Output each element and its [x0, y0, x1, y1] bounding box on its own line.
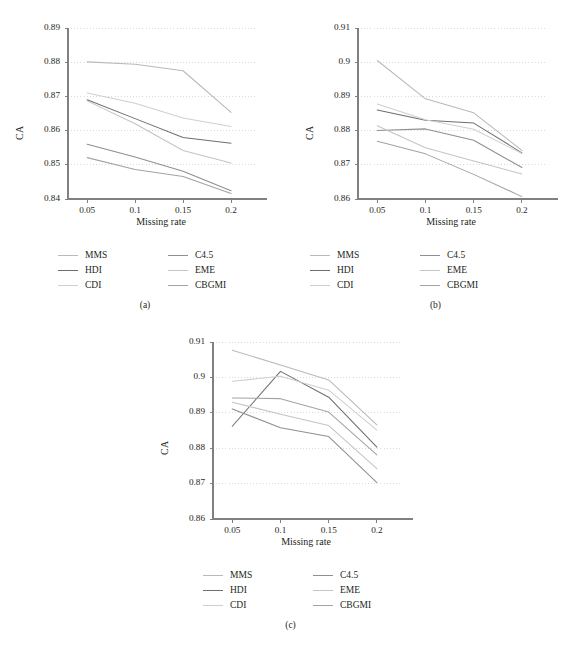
legend-swatch-hdi [58, 270, 78, 271]
legend-item-eme[interactable]: EME [168, 263, 226, 278]
legend-item-c45[interactable]: C4.5 [420, 248, 478, 263]
legend-item-eme[interactable]: EME [313, 583, 371, 598]
panel-c: CA Missing rate MMS HDI CDI [145, 310, 436, 647]
legend-swatch-cbgmi [420, 285, 440, 286]
legend-label-c45: C4.5 [447, 248, 465, 263]
y-axis-tick-label: 0.86 [26, 124, 60, 134]
legend-swatch-c45 [313, 575, 333, 576]
legend-swatch-mms [310, 255, 330, 256]
y-axis-tick-label: 0.88 [26, 56, 60, 66]
panel-b-legend: MMS HDI CDI C4.5 EME [290, 248, 581, 298]
y-axis-tick-label: 0.89 [171, 406, 205, 416]
y-axis-tick-label: 0.87 [26, 90, 60, 100]
x-axis-tick-label: 0.15 [454, 205, 494, 215]
legend-item-hdi[interactable]: HDI [58, 263, 107, 278]
legend-swatch-eme [420, 270, 440, 271]
legend-swatch-hdi [310, 270, 330, 271]
legend-item-eme[interactable]: EME [420, 263, 478, 278]
legend-label-cdi: CDI [230, 598, 246, 613]
legend-item-cdi[interactable]: CDI [58, 278, 107, 293]
legend-label-cbgmi: CBGMI [447, 278, 478, 293]
legend-swatch-eme [168, 270, 188, 271]
y-axis-tick-label: 0.89 [316, 90, 350, 100]
x-axis-tick-label: 0.05 [212, 525, 252, 535]
y-axis-tick-label: 0.91 [316, 22, 350, 32]
x-axis-tick-label: 0.15 [163, 205, 203, 215]
legend-label-hdi: HDI [230, 583, 247, 598]
y-axis-tick-label: 0.89 [26, 22, 60, 32]
legend-swatch-mms [58, 255, 78, 256]
legend-item-mms[interactable]: MMS [310, 248, 359, 263]
panel-a-legend-col-1: MMS HDI CDI [58, 248, 107, 293]
panel-c-legend-col-1: MMS HDI CDI [203, 568, 252, 613]
y-axis-tick-label: 0.84 [26, 193, 60, 203]
legend-swatch-cdi [310, 285, 330, 286]
legend-label-mms: MMS [85, 248, 107, 263]
y-axis-tick-label: 0.87 [316, 158, 350, 168]
panel-b-caption: (b) [290, 300, 581, 310]
x-axis-tick-label: 0.2 [211, 205, 251, 215]
x-axis-tick-label: 0.1 [260, 525, 300, 535]
x-axis-tick-label: 0.2 [502, 205, 542, 215]
panel-b-x-axis-title: Missing rate [356, 216, 546, 227]
legend-label-c45: C4.5 [195, 248, 213, 263]
legend-swatch-c45 [420, 255, 440, 256]
legend-swatch-hdi [203, 590, 223, 591]
panel-c-x-axis-title: Missing rate [211, 536, 401, 547]
panel-b-legend-col-2: C4.5 EME CBGMI [420, 248, 478, 293]
legend-label-hdi: HDI [337, 263, 354, 278]
legend-label-cdi: CDI [337, 278, 353, 293]
legend-item-cdi[interactable]: CDI [310, 278, 359, 293]
x-axis-tick-label: 0.2 [357, 525, 397, 535]
y-axis-tick-label: 0.91 [171, 336, 205, 346]
panel-a-legend: MMS HDI CDI C4.5 EME [0, 248, 290, 298]
legend-label-mms: MMS [230, 568, 252, 583]
legend-label-cdi: CDI [85, 278, 101, 293]
x-axis-tick-label: 0.15 [309, 525, 349, 535]
legend-label-cbgmi: CBGMI [195, 278, 226, 293]
x-axis-tick-label: 0.05 [357, 205, 397, 215]
y-axis-tick-label: 0.9 [316, 56, 350, 66]
legend-item-hdi[interactable]: HDI [203, 583, 252, 598]
panel-a: CA Missing rate MMS HDI CDI [0, 0, 290, 310]
legend-swatch-cbgmi [168, 285, 188, 286]
x-axis-tick-label: 0.1 [405, 205, 445, 215]
legend-label-cbgmi: CBGMI [340, 598, 371, 613]
panel-c-legend-col-2: C4.5 EME CBGMI [313, 568, 371, 613]
legend-item-mms[interactable]: MMS [58, 248, 107, 263]
y-axis-tick-label: 0.85 [26, 158, 60, 168]
panel-c-svg [145, 310, 436, 560]
panel-a-svg [0, 0, 290, 240]
y-axis-tick-label: 0.88 [316, 124, 350, 134]
legend-label-eme: EME [447, 263, 467, 278]
panel-c-caption: (c) [145, 620, 436, 630]
panel-c-legend: MMS HDI CDI C4.5 EME [145, 568, 436, 618]
y-axis-tick-label: 0.86 [316, 193, 350, 203]
panel-b-svg [290, 0, 581, 240]
legend-label-eme: EME [340, 583, 360, 598]
legend-swatch-cdi [203, 605, 223, 606]
panel-a-legend-col-2: C4.5 EME CBGMI [168, 248, 226, 293]
legend-item-cbgmi[interactable]: CBGMI [313, 598, 371, 613]
legend-swatch-cbgmi [313, 605, 333, 606]
y-axis-tick-label: 0.88 [171, 442, 205, 452]
legend-item-c45[interactable]: C4.5 [313, 568, 371, 583]
legend-label-c45: C4.5 [340, 568, 358, 583]
legend-swatch-eme [313, 590, 333, 591]
figure-root: CA Missing rate MMS HDI CDI [0, 0, 581, 647]
legend-item-hdi[interactable]: HDI [310, 263, 359, 278]
legend-item-cdi[interactable]: CDI [203, 598, 252, 613]
panel-a-caption: (a) [0, 300, 290, 310]
y-axis-tick-label: 0.86 [171, 513, 205, 523]
legend-item-cbgmi[interactable]: CBGMI [420, 278, 478, 293]
legend-label-hdi: HDI [85, 263, 102, 278]
y-axis-tick-label: 0.9 [171, 371, 205, 381]
legend-swatch-c45 [168, 255, 188, 256]
legend-item-cbgmi[interactable]: CBGMI [168, 278, 226, 293]
y-axis-tick-label: 0.87 [171, 477, 205, 487]
legend-swatch-cdi [58, 285, 78, 286]
legend-item-c45[interactable]: C4.5 [168, 248, 226, 263]
panel-a-x-axis-title: Missing rate [66, 216, 256, 227]
x-axis-tick-label: 0.1 [115, 205, 155, 215]
legend-item-mms[interactable]: MMS [203, 568, 252, 583]
